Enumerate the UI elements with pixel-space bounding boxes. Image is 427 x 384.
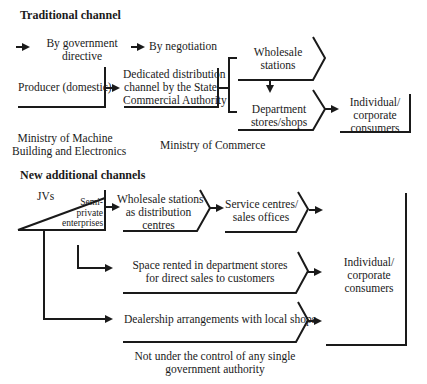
- consumers-line2: corporate: [342, 109, 408, 122]
- footnote-no-single-authority: Not under the control of any single gove…: [130, 350, 300, 376]
- dedicated-distribution-channel: Dedicated distribution channel by the St…: [123, 68, 218, 107]
- wholesale-dc-line1: Wholesale stations: [117, 193, 200, 206]
- traditional-consumers: Individual/ corporate consumers: [342, 96, 408, 135]
- legend-negotiation: By negotiation: [149, 40, 217, 53]
- ministry-machine-line1: Ministry of Machine: [12, 132, 118, 145]
- department-line1: Department: [243, 103, 315, 116]
- new-consumers-line3: consumers: [336, 282, 402, 295]
- ministry-of-commerce: Ministry of Commerce: [160, 139, 265, 152]
- producer-domestic-label: Producer (domestic): [18, 81, 112, 94]
- department-stores-shops: Department stores/shops: [243, 103, 315, 129]
- service-centres-sales-offices: Service centres/ sales offices: [225, 198, 297, 224]
- legend-directive-line2: directive: [42, 50, 122, 63]
- footnote-line2: government authority: [130, 363, 300, 376]
- footnote-line1: Not under the control of any single: [130, 350, 300, 363]
- semi-line1: Semi-: [62, 197, 103, 208]
- ministry-machine-building: Ministry of Machine Building and Electro…: [12, 132, 118, 158]
- consumers-line1: Individual/: [342, 96, 408, 109]
- semi-line2: private: [62, 208, 103, 219]
- ministry-machine-line2: Building and Electronics: [12, 145, 118, 158]
- distribution-channels-diagram: Traditional channel By government direct…: [0, 0, 427, 384]
- space-rented-department-stores: Space rented in department stores for di…: [125, 259, 295, 285]
- new-channels-heading: New additional channels: [20, 169, 145, 182]
- wholesale-line2: stations: [243, 59, 313, 72]
- department-line2: stores/shops: [243, 116, 315, 129]
- dedicated-line3: Commercial Authority: [123, 94, 218, 107]
- dedicated-line2: channel by the State: [123, 81, 218, 94]
- legend-directive-line1: By government: [42, 37, 122, 50]
- new-consumers-line1: Individual/: [336, 256, 402, 269]
- dedicated-line1: Dedicated distribution: [123, 68, 218, 81]
- traditional-channel-heading: Traditional channel: [20, 9, 121, 22]
- semi-line3: enterprises: [62, 218, 103, 229]
- wholesale-stations: Wholesale stations: [243, 46, 313, 72]
- wholesale-line1: Wholesale: [243, 46, 313, 59]
- service-line2: sales offices: [225, 211, 297, 224]
- space-line2: for direct sales to customers: [125, 272, 295, 285]
- dealership-arrangements: Dealership arrangements with local shops: [124, 313, 316, 326]
- service-line1: Service centres/: [225, 198, 297, 211]
- wholesale-dc-line2: as distribution: [117, 206, 200, 219]
- jvs-label: JVs: [37, 190, 54, 203]
- consumers-line3: consumers: [342, 122, 408, 135]
- legend-government-directive: By government directive: [42, 37, 122, 63]
- new-consumers-line2: corporate: [336, 269, 402, 282]
- wholesale-dc-line3: centres: [117, 219, 200, 232]
- new-consumers: Individual/ corporate consumers: [336, 256, 402, 295]
- space-line1: Space rented in department stores: [125, 259, 295, 272]
- wholesale-distribution-centres: Wholesale stations as distribution centr…: [117, 193, 200, 232]
- semi-private-enterprises: Semi- private enterprises: [62, 197, 103, 229]
